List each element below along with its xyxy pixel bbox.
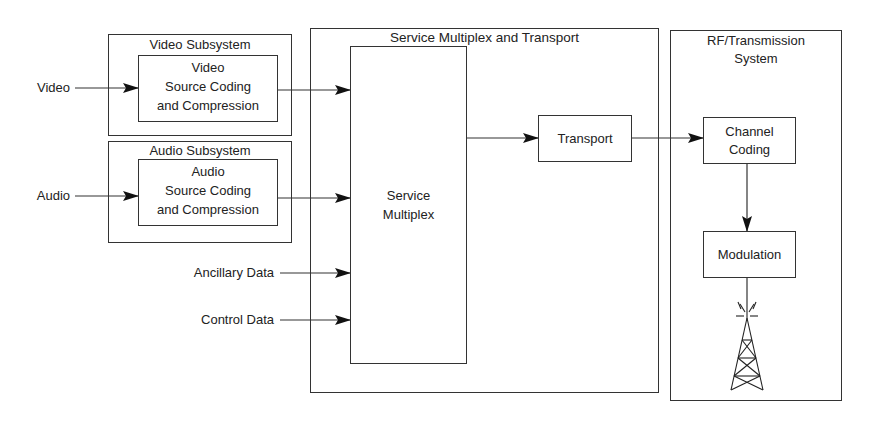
transport-block: Transport [538, 115, 632, 162]
channel-coding-line1: Channel [704, 122, 795, 141]
audio-subsystem-title: Audio Subsystem [109, 141, 291, 160]
channel-coding-block: Channel Coding [703, 117, 796, 164]
video-source-coding-block: Video Source Coding and Compression [138, 55, 278, 122]
video-block-line2: Source Coding [139, 77, 277, 96]
service-multiplex-line2: Multiplex [351, 205, 466, 224]
audio-block-line1: Audio [139, 162, 277, 181]
rf-transmission-system-group: RF/Transmission System [670, 30, 842, 401]
video-block-line1: Video [139, 58, 277, 77]
audio-source-coding-block: Audio Source Coding and Compression [138, 159, 278, 226]
rf-title-line2: System [671, 49, 841, 68]
input-label-ancillary-data: Ancillary Data [150, 263, 274, 282]
service-multiplex-block: Service Multiplex [350, 46, 467, 364]
modulation-block: Modulation [703, 231, 796, 278]
input-label-control-data: Control Data [150, 310, 274, 329]
video-block-line3: and Compression [139, 96, 277, 115]
broadcast-system-diagram: Video Audio Ancillary Data Control Data … [0, 0, 874, 421]
service-multiplex-line1: Service [351, 186, 466, 205]
transport-label: Transport [539, 129, 631, 148]
channel-coding-line2: Coding [704, 140, 795, 159]
video-subsystem-title: Video Subsystem [109, 35, 291, 54]
input-label-video: Video [10, 78, 70, 97]
audio-block-line3: and Compression [139, 200, 277, 219]
service-multiplex-transport-title: Service Multiplex and Transport [311, 28, 658, 47]
rf-title-line1: RF/Transmission [671, 31, 841, 50]
audio-block-line2: Source Coding [139, 181, 277, 200]
input-label-audio: Audio [10, 186, 70, 205]
modulation-label: Modulation [704, 245, 795, 264]
